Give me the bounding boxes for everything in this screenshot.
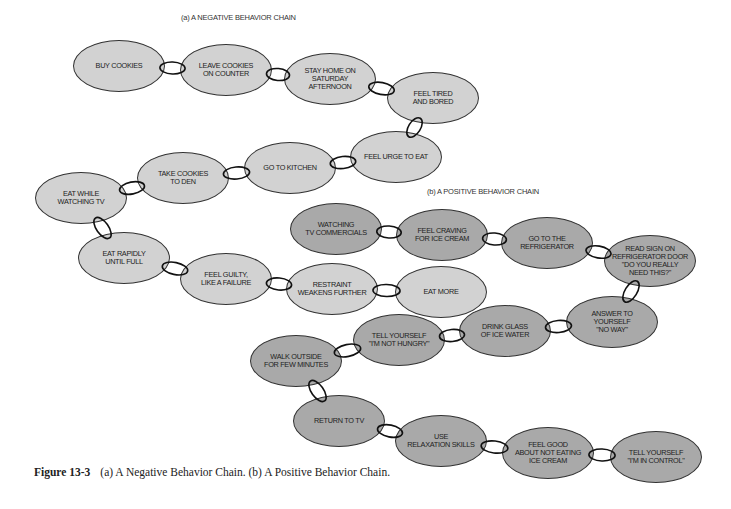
chain-link-icon xyxy=(160,62,186,75)
chain-link-icon xyxy=(161,260,189,277)
chain-link-icon xyxy=(333,342,362,359)
chain-link-icon xyxy=(118,180,145,197)
chain-link-icon xyxy=(373,284,400,297)
chain-link-icon xyxy=(368,80,396,96)
chain-link-icon xyxy=(90,215,114,242)
chain-link-icon xyxy=(589,449,616,462)
chain-link-icon xyxy=(223,166,250,180)
chain-link-icon xyxy=(404,115,426,140)
chain-links xyxy=(0,0,731,509)
chain-link-icon xyxy=(330,155,357,170)
behavior-chain-diagram: (a) A NEGATIVE BEHAVIOR CHAIN (b) A POSI… xyxy=(0,0,731,509)
chain-link-icon xyxy=(266,277,292,291)
chain-link-icon xyxy=(585,244,612,260)
chain-link-icon xyxy=(480,440,508,455)
chain-link-icon xyxy=(266,68,290,82)
chain-link-icon xyxy=(305,378,329,405)
chain-link-icon xyxy=(545,319,572,333)
chain-link-icon xyxy=(376,423,403,440)
chain-link-icon xyxy=(376,225,401,238)
chain-link-icon xyxy=(620,278,643,305)
chain-link-icon xyxy=(439,328,465,342)
chain-link-icon xyxy=(482,232,507,246)
